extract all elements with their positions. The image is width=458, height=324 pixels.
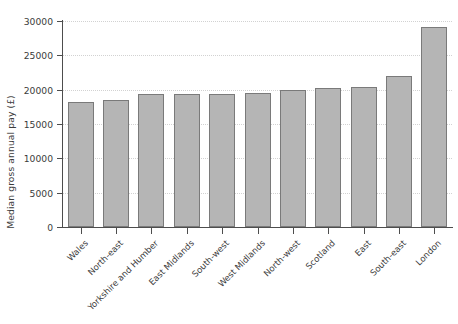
bar xyxy=(174,94,200,227)
x-tick-label: Yorkshire and Humber xyxy=(86,238,160,312)
y-tick-label: 25000 xyxy=(0,50,53,61)
bar xyxy=(421,27,447,228)
x-tick xyxy=(222,228,223,234)
y-tick-label: 0 xyxy=(0,222,53,233)
x-tick xyxy=(187,228,188,234)
x-tick xyxy=(293,228,294,234)
bar xyxy=(386,76,412,227)
y-tick-label: 10000 xyxy=(0,153,53,164)
y-tick-label: 20000 xyxy=(0,84,53,95)
x-tick xyxy=(151,228,152,234)
bar xyxy=(138,94,164,227)
y-tick-label: 30000 xyxy=(0,16,53,27)
bar xyxy=(68,102,94,227)
x-tick-label: Scotland xyxy=(304,238,337,271)
x-tick xyxy=(364,228,365,234)
bar xyxy=(280,90,306,227)
bar xyxy=(245,93,271,227)
plot-area xyxy=(63,21,452,227)
bar xyxy=(315,88,341,227)
x-tick xyxy=(399,228,400,234)
chart-figure: Median gross annual pay (£) 050001000015… xyxy=(0,0,458,324)
x-tick xyxy=(81,228,82,234)
x-tick-label: London xyxy=(414,238,443,267)
y-tick-label: 15000 xyxy=(0,119,53,130)
y-tick xyxy=(57,227,63,228)
x-tick xyxy=(116,228,117,234)
x-tick xyxy=(328,228,329,234)
bar xyxy=(351,87,377,227)
x-tick-label: Wales xyxy=(65,238,90,263)
x-tick xyxy=(434,228,435,234)
gridline xyxy=(63,55,452,56)
x-tick-label: East xyxy=(352,238,372,258)
bar xyxy=(103,100,129,227)
x-tick xyxy=(258,228,259,234)
gridline xyxy=(63,21,452,22)
y-tick-label: 5000 xyxy=(0,187,53,198)
bar xyxy=(209,94,235,227)
